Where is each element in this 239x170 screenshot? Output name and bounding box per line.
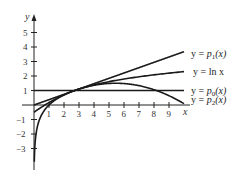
chart: y x 5 4 3 2 1 −1 −2 −3 1 2 3 4 5 6	[0, 0, 239, 170]
x-tick-label: 5	[107, 109, 112, 119]
x-tick-label: 4	[92, 109, 97, 119]
y-tick-label: 4	[23, 42, 28, 52]
x-tick-label: 7	[137, 109, 142, 119]
x-tick-label: 9	[167, 109, 172, 119]
label-p1: y = p1(x)	[191, 48, 227, 61]
x-tick-label: 1	[47, 109, 52, 119]
x-tick-label: 3	[77, 109, 82, 119]
x-tick-label: 2	[62, 109, 67, 119]
y-tick-label: −1	[16, 115, 26, 125]
y-tick-label: 3	[23, 57, 28, 67]
y-tick-label: 2	[23, 71, 28, 81]
curve-p1	[34, 52, 184, 105]
label-lnx: y = ln x	[193, 66, 224, 77]
x-axis-label: x	[182, 106, 188, 117]
label-p2: y = p2(x)	[191, 94, 227, 107]
y-tick-label: −2	[16, 129, 26, 139]
y-tick-label: 5	[23, 28, 28, 38]
y-axis-arrow-icon	[32, 14, 37, 21]
y-tick-label: 1	[23, 86, 28, 96]
y-axis-label: y	[24, 11, 30, 22]
y-tick-label: −3	[16, 144, 26, 154]
x-tick-label: 8	[152, 109, 157, 119]
x-tick-label: 6	[122, 109, 127, 119]
curve-labels: y = p1(x) y = ln x y = p0(x) y = p2(x)	[191, 48, 227, 107]
